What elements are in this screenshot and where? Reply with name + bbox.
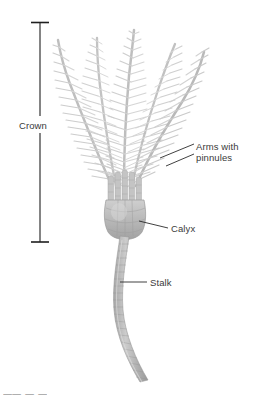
leader-arms-lower	[166, 154, 194, 166]
arms-with-pinnules	[53, 30, 209, 204]
label-arms-with-pinnules: Arms with pinnules	[196, 141, 239, 163]
label-arms-line1: Arms with	[196, 141, 239, 152]
label-arms-line2: pinnules	[196, 152, 239, 163]
stalk	[113, 236, 148, 382]
calyx	[104, 200, 145, 240]
cropped-caption-fragment: ㅡㅡ ㅡ ㅡ	[3, 387, 47, 395]
scan-edge-artifact	[0, 96, 6, 122]
crinoid-anatomy-diagram	[0, 0, 264, 398]
crown-measure-bracket	[31, 23, 49, 243]
label-crown: Crown	[17, 119, 49, 132]
label-stalk: Stalk	[150, 277, 172, 288]
label-calyx: Calyx	[171, 223, 195, 234]
